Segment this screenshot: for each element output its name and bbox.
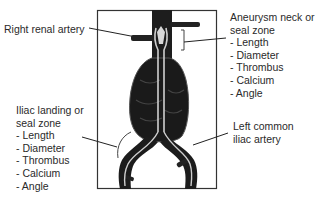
neck-title-line1: Aneurysm neck or — [230, 11, 315, 24]
aneurysm-neck-label: Aneurysm neck or seal zone - Length - Di… — [230, 11, 315, 99]
neck-item-calcium: - Calcium — [230, 74, 315, 87]
neck-item-thrombus: - Thrombus — [230, 61, 315, 74]
aneurysm-sac — [130, 58, 189, 142]
iliac-item-length: - Length — [16, 129, 84, 142]
left-iliac-line2: iliac artery — [233, 133, 294, 146]
iliac-item-diameter: - Diameter — [16, 142, 84, 155]
iliac-landing-label: Iliac landing or seal zone - Length - Di… — [16, 104, 84, 192]
iliac-title-line1: Iliac landing or — [16, 104, 84, 117]
left-iliac-line1: Left common — [233, 120, 294, 133]
neck-title-line2: seal zone — [230, 24, 315, 37]
right-renal-artery-shape — [131, 35, 155, 41]
neck-item-angle: - Angle — [230, 87, 315, 100]
iliac-item-calcium: - Calcium — [16, 167, 84, 180]
left-renal-artery-shape — [170, 22, 200, 27]
right-renal-artery-text: Right renal artery — [4, 23, 85, 36]
left-common-iliac-label: Left common iliac artery — [233, 120, 294, 145]
iliac-item-angle: - Angle — [16, 180, 84, 193]
iliac-title-line2: seal zone — [16, 117, 84, 130]
iliac-item-thrombus: - Thrombus — [16, 154, 84, 167]
right-renal-artery-label: Right renal artery — [4, 23, 85, 36]
neck-item-diameter: - Diameter — [230, 49, 315, 62]
neck-item-length: - Length — [230, 36, 315, 49]
